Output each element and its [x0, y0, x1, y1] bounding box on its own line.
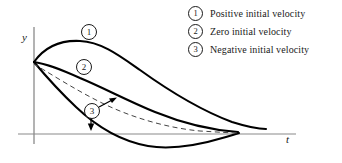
- legend-badge-2: 2: [188, 24, 203, 39]
- t-axis-label: t: [286, 133, 289, 145]
- legend-label-positive: Positive initial velocity: [210, 8, 305, 19]
- annotation-arrowhead-curve3: [88, 124, 94, 132]
- legend-label-negative: Negative initial velocity: [210, 44, 309, 55]
- legend-item-zero: 2 Zero initial velocity: [188, 22, 342, 40]
- annotation-arrowhead-dashed: [109, 98, 117, 104]
- figure-container: y t 1 2 3 1 Positive initial velocity 2 …: [0, 0, 342, 163]
- legend-badge-1: 1: [188, 6, 203, 21]
- legend-item-positive: 1 Positive initial velocity: [188, 4, 342, 22]
- legend-label-zero: Zero initial velocity: [210, 26, 292, 37]
- legend-badge-3: 3: [188, 42, 203, 57]
- legend-item-negative: 3 Negative initial velocity: [188, 40, 342, 58]
- curve-badge-3: 3: [84, 103, 100, 119]
- curve-badge-1: 1: [81, 24, 97, 40]
- y-axis-label: y: [22, 31, 27, 43]
- curve-badge-2: 2: [76, 59, 92, 75]
- dashed-asymptote-curve: [34, 64, 239, 133]
- legend: 1 Positive initial velocity 2 Zero initi…: [188, 4, 342, 58]
